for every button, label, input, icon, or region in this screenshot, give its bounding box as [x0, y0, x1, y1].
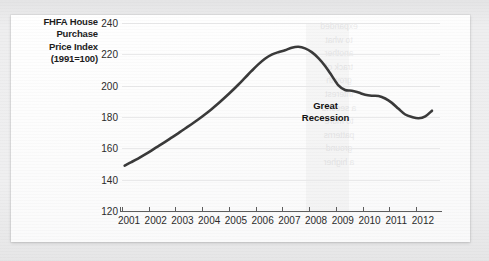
y-axis-tick-label: 160 — [101, 143, 118, 154]
x-axis-line — [120, 211, 442, 212]
chart-plot-area: 240220200180160140120 GreatRecession 200… — [104, 17, 446, 225]
x-axis-tick — [363, 207, 364, 211]
x-axis-tick-label: 2001 — [118, 215, 140, 226]
y-axis-tick-label: 140 — [101, 174, 118, 185]
y-axis-title-line: (1991=100) — [8, 53, 98, 65]
y-axis-tick-label: 200 — [101, 80, 118, 91]
x-axis-tick-label: 2008 — [305, 215, 327, 226]
y-axis-tick-label: 180 — [101, 112, 118, 123]
y-axis-title: FHFA HousePurchasePrice Index(1991=100) — [8, 16, 98, 66]
x-axis-tick-label: 2002 — [145, 215, 167, 226]
y-axis-tick-label: 120 — [101, 206, 118, 217]
y-axis-title-line: FHFA House — [8, 16, 98, 28]
x-axis-tick — [229, 207, 230, 211]
y-axis-origin-stub — [120, 207, 121, 212]
x-axis-tick-label: 2007 — [278, 215, 300, 226]
x-axis-tick-label: 2004 — [198, 215, 220, 226]
x-axis-tick — [256, 207, 257, 211]
x-axis-tick-label: 2011 — [385, 215, 407, 226]
series-line-chart — [122, 23, 440, 211]
annotation-line: Great — [302, 100, 350, 112]
x-axis-tick — [122, 207, 123, 211]
x-axis-tick-label: 2005 — [225, 215, 247, 226]
x-axis-tick — [202, 207, 203, 211]
x-axis-tick — [149, 207, 150, 211]
x-axis-tick — [282, 207, 283, 211]
y-axis-title-line: Price Index — [8, 41, 98, 53]
x-axis-tick — [175, 207, 176, 211]
x-axis-tick — [336, 207, 337, 211]
annotation-line: Recession — [302, 112, 350, 124]
x-axis-tick — [416, 207, 417, 211]
series-line-path — [125, 47, 432, 166]
x-axis-tick-label: 2003 — [171, 215, 193, 226]
annotation-great-recession: GreatRecession — [302, 100, 350, 124]
x-axis-tick-label: 2010 — [358, 215, 380, 226]
x-axis-tick-label: 2006 — [251, 215, 273, 226]
y-axis-tick-label: 240 — [101, 18, 118, 29]
y-axis-tick-label: 220 — [101, 49, 118, 60]
x-axis-tick — [309, 207, 310, 211]
y-axis-title-line: Purchase — [8, 28, 98, 40]
x-axis-tick — [389, 207, 390, 211]
x-axis-tick-label: 2012 — [412, 215, 434, 226]
x-axis-tick-label: 2009 — [332, 215, 354, 226]
plot-inner: 240220200180160140120 GreatRecession 200… — [122, 23, 440, 211]
